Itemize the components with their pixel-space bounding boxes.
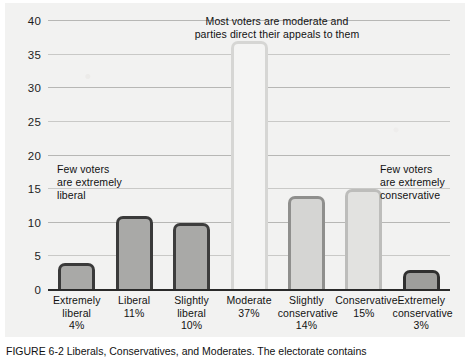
category-label-line: 11% [105, 307, 162, 320]
y-axis-tick-label: 20 [28, 150, 41, 162]
annotation-line: Few voters [380, 163, 445, 176]
y-axis-tick-label: 35 [28, 49, 41, 61]
y-axis-tick-label: 25 [28, 116, 41, 128]
annotation-line: are extremely [380, 176, 445, 189]
figure-screenshot: 0510152025303540 Few voters are extremel… [0, 0, 470, 357]
annotation-few-conservative: Few voters are extremely conservative [380, 163, 445, 202]
category-label-line: conservative [278, 307, 335, 320]
category-label-extremely-conservative: Extremelyconservative3% [393, 294, 450, 332]
annotation-most-moderate: Most voters are moderate and parties dir… [173, 15, 381, 41]
category-label-line: 37% [220, 307, 277, 320]
figure-panel: 0510152025303540 Few voters are extremel… [5, 3, 465, 337]
y-axis-ticks: 0510152025303540 [48, 21, 450, 290]
category-label-line: liberal [163, 307, 220, 320]
category-label-line: Extremely [48, 294, 105, 307]
category-label-extremely-liberal: Extremelyliberal4% [48, 294, 105, 332]
annotation-line: liberal [57, 189, 122, 202]
annotation-line: Few voters [57, 163, 122, 176]
category-label-line: Slightly [278, 294, 335, 307]
category-label-line: Liberal [105, 294, 162, 307]
category-label-line: Conservative [335, 294, 392, 307]
y-axis-tick-label: 30 [28, 82, 41, 94]
category-label-line: Extremely [393, 294, 450, 307]
annotation-few-liberal: Few voters are extremely liberal [57, 163, 122, 202]
category-label-line: 4% [48, 319, 105, 332]
annotation-line: are extremely [57, 176, 122, 189]
category-label-slightly-liberal: Slightlyliberal10% [163, 294, 220, 332]
y-axis-tick-label: 5 [34, 250, 41, 262]
category-label-slightly-conservative: Slightlyconservative14% [278, 294, 335, 332]
y-axis-tick-label: 15 [28, 183, 41, 195]
category-label-conservative: Conservative15% [335, 294, 392, 319]
annotation-line: parties direct their appeals to them [173, 28, 381, 41]
category-label-line: Moderate [220, 294, 277, 307]
figure-caption-text: FIGURE 6-2 Liberals, Conservatives, and … [6, 345, 366, 357]
category-label-line: 10% [163, 319, 220, 332]
category-label-line: liberal [48, 307, 105, 320]
annotation-line: conservative [380, 189, 445, 202]
bar-chart-plot-area: 0510152025303540 [48, 21, 450, 290]
category-label-line: 3% [393, 319, 450, 332]
y-axis-tick-label: 0 [34, 284, 41, 296]
category-label-line: Slightly [163, 294, 220, 307]
category-label-line: 15% [335, 307, 392, 320]
figure-caption: FIGURE 6-2 Liberals, Conservatives, and … [6, 345, 464, 357]
category-label-line: conservative [393, 307, 450, 320]
category-label-liberal: Liberal11% [105, 294, 162, 319]
annotation-line: Most voters are moderate and [173, 15, 381, 28]
y-axis-tick-label: 40 [28, 15, 41, 27]
y-axis-tick-label: 10 [28, 217, 41, 229]
category-label-moderate: Moderate37% [220, 294, 277, 319]
category-label-line: 14% [278, 319, 335, 332]
